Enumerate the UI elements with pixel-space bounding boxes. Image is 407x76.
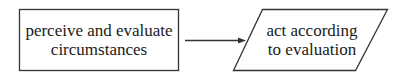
act-label-line-2: to evaluation: [250, 40, 374, 59]
act-node-label: act according to evaluation: [250, 21, 374, 59]
perceive-label-line-2: circumstances: [19, 40, 179, 59]
perceive-label-line-1: perceive and evaluate: [19, 21, 179, 40]
perceive-node-label: perceive and evaluate circumstances: [19, 21, 179, 59]
act-label-line-1: act according: [250, 21, 374, 40]
arrow-head-icon: [238, 38, 246, 44]
